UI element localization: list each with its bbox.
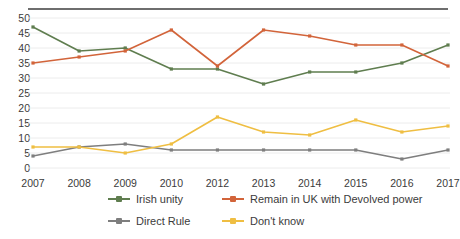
- line-marker-icon: [108, 216, 130, 226]
- legend-item-direct-rule[interactable]: Direct Rule: [108, 215, 190, 227]
- data-point: [124, 46, 127, 49]
- data-point: [31, 25, 34, 28]
- x-axis-tick-label: 2017: [436, 176, 459, 190]
- data-point: [308, 34, 311, 37]
- x-axis-tick-label: 2010: [160, 176, 183, 190]
- data-point: [31, 154, 34, 157]
- line-marker-icon: [222, 194, 244, 204]
- x-axis-tick-label: 2007: [21, 176, 44, 190]
- legend-item-remain-in-uk-with-devolved-power[interactable]: Remain in UK with Devolved power: [222, 193, 422, 205]
- plot-svg: [0, 14, 456, 174]
- data-point: [354, 148, 357, 151]
- data-point: [216, 148, 219, 151]
- data-point: [262, 82, 265, 85]
- data-point: [78, 145, 81, 148]
- data-point: [446, 64, 449, 67]
- data-point: [262, 28, 265, 31]
- data-point: [400, 130, 403, 133]
- legend-label: Irish unity: [136, 193, 183, 205]
- x-axis-tick-label: 2015: [344, 176, 367, 190]
- data-point: [216, 67, 219, 70]
- data-point: [446, 148, 449, 151]
- data-point: [31, 61, 34, 64]
- data-point: [170, 28, 173, 31]
- x-axis-tick-label: 2009: [114, 176, 137, 190]
- data-point: [124, 151, 127, 154]
- legend-label: Remain in UK with Devolved power: [250, 193, 422, 205]
- data-point: [354, 70, 357, 73]
- legend-item-irish-unity[interactable]: Irish unity: [108, 193, 183, 205]
- data-point: [78, 49, 81, 52]
- series-line-3: [33, 117, 448, 153]
- data-point: [446, 43, 449, 46]
- data-point: [400, 61, 403, 64]
- data-point: [216, 64, 219, 67]
- data-point: [170, 148, 173, 151]
- x-axis-tick-label: 2012: [206, 176, 229, 190]
- data-point: [78, 55, 81, 58]
- data-point: [124, 142, 127, 145]
- plot-area: [0, 14, 456, 174]
- data-point: [308, 70, 311, 73]
- data-point: [31, 145, 34, 148]
- data-point: [308, 148, 311, 151]
- data-point: [446, 124, 449, 127]
- x-axis-tick-label: 2016: [390, 176, 413, 190]
- top-divider-rule: [28, 8, 448, 10]
- legend-label: Direct Rule: [136, 215, 190, 227]
- x-axis-tick-label: 2008: [67, 176, 90, 190]
- data-point: [354, 43, 357, 46]
- data-point: [400, 43, 403, 46]
- line-marker-icon: [108, 194, 130, 204]
- data-point: [262, 130, 265, 133]
- line-marker-icon: [222, 216, 244, 226]
- legend-item-dont-know[interactable]: Don't know: [222, 215, 304, 227]
- data-point: [216, 115, 219, 118]
- x-axis-tick-label: 2013: [252, 176, 275, 190]
- data-point: [308, 133, 311, 136]
- x-axis-tick-label: 2014: [298, 176, 321, 190]
- chart-legend: Irish unity Remain in UK with Devolved p…: [0, 193, 456, 237]
- data-point: [354, 118, 357, 121]
- series-line-2: [33, 144, 448, 159]
- data-point: [124, 49, 127, 52]
- data-point: [262, 148, 265, 151]
- x-axis-tick-labels: 2007200820092010201220132014201520162017: [0, 176, 456, 192]
- data-point: [170, 142, 173, 145]
- data-point: [400, 157, 403, 160]
- data-point: [170, 67, 173, 70]
- legend-label: Don't know: [250, 215, 304, 227]
